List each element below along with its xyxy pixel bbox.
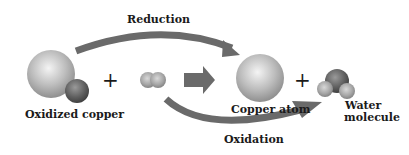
plus-sign-2: +	[294, 70, 311, 90]
water-label-line2: molecule	[344, 112, 400, 124]
copper-atom-label: Copper atom	[231, 104, 310, 116]
hydrogen-molecule	[140, 72, 166, 88]
copper-atom	[236, 54, 284, 102]
oxidation-label: Oxidation	[224, 134, 284, 146]
reaction-arrow	[184, 66, 215, 94]
oxidized-copper-label: Oxidized copper	[25, 109, 124, 121]
water-molecule	[317, 69, 355, 99]
reduction-label: Reduction	[127, 14, 190, 26]
reduction-arrow	[76, 35, 240, 57]
oxygen-atom-sphere	[65, 79, 89, 103]
plus-sign-1: +	[102, 70, 119, 90]
redox-diagram	[0, 0, 409, 155]
oxidized-copper-molecule	[27, 50, 89, 103]
